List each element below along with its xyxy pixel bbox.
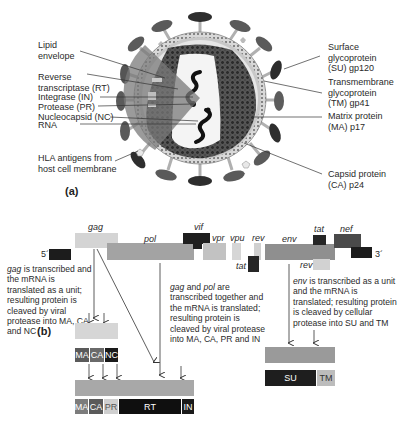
gene-tat-exon2 bbox=[313, 235, 326, 245]
product-pr: PR bbox=[104, 399, 118, 414]
gag-pol-description: gag and pol are transcribed together and… bbox=[170, 282, 268, 344]
gene-name: env bbox=[293, 276, 307, 286]
gene-label-gag: gag bbox=[88, 222, 103, 233]
gene-vpu bbox=[232, 243, 241, 260]
env-description: env is transcribed as a unit and the mRN… bbox=[293, 276, 399, 328]
product-ca: CA bbox=[90, 348, 104, 362]
product-in: IN bbox=[182, 399, 194, 414]
product-ma-2: MA bbox=[75, 399, 88, 414]
product-rt: RT bbox=[119, 399, 181, 414]
description-text: is transcribed as a unit and the mRNA is… bbox=[293, 276, 397, 328]
gene-nef bbox=[334, 234, 361, 248]
gag-polyprotein bbox=[75, 323, 118, 339]
gene-vif-tail bbox=[193, 243, 202, 249]
five-prime-ltr bbox=[49, 249, 71, 260]
product-ca-2: CA bbox=[89, 399, 103, 414]
gene-label-vif: vif bbox=[194, 222, 203, 233]
gene-label-rev: rev bbox=[252, 233, 265, 244]
description-text: and bbox=[184, 282, 203, 292]
gag-pol-polyprotein bbox=[75, 380, 194, 396]
gene-label-tat: tat bbox=[236, 261, 246, 272]
gene-label-nef: nef bbox=[340, 224, 353, 235]
gene-label-vpu: vpu bbox=[230, 233, 245, 244]
gene-rev-exon2 bbox=[313, 259, 330, 270]
gene-label-tat-2: tat bbox=[314, 224, 324, 235]
gene-name: pol bbox=[203, 282, 214, 292]
panel-label-b: (b) bbox=[37, 325, 51, 337]
three-prime-ltr bbox=[351, 247, 372, 258]
gene-label-vpr: vpr bbox=[212, 233, 225, 244]
gene-name: gag bbox=[170, 282, 184, 292]
env-polyprotein bbox=[265, 347, 335, 363]
gene-pol bbox=[107, 243, 194, 260]
product-su: SU bbox=[265, 370, 316, 386]
product-ma: MA bbox=[75, 348, 89, 362]
product-nc: NC bbox=[105, 348, 118, 362]
gene-label-env: env bbox=[282, 234, 297, 245]
product-tm: TM bbox=[317, 370, 335, 386]
processing-arrows bbox=[0, 0, 402, 421]
five-prime-label: 5´ bbox=[41, 249, 49, 260]
three-prime-label: 3´ bbox=[375, 249, 383, 260]
gene-name: gag bbox=[7, 264, 21, 274]
gene-tat-exon1 bbox=[248, 256, 259, 272]
gene-vpr bbox=[203, 243, 226, 260]
gene-label-rev-2: rev bbox=[300, 260, 313, 271]
gene-label-pol: pol bbox=[144, 234, 156, 245]
gene-env bbox=[265, 244, 335, 260]
